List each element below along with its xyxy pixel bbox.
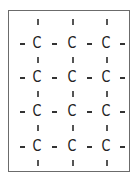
carbon-atom: C: [101, 69, 111, 85]
horizontal-bond: [87, 77, 92, 79]
vertical-bond: [106, 91, 107, 97]
vertical-bond: [72, 19, 73, 25]
vertical-bond: [106, 57, 107, 63]
horizontal-bond: [20, 43, 25, 45]
horizontal-bond: [87, 111, 92, 113]
carbon-atom: C: [67, 138, 77, 154]
carbon-atom: C: [101, 103, 111, 119]
vertical-bond: [72, 160, 73, 166]
horizontal-bond: [20, 111, 25, 113]
vertical-bond: [106, 160, 107, 166]
carbon-atom: C: [32, 69, 42, 85]
vertical-bond: [37, 125, 38, 131]
vertical-bond: [72, 57, 73, 63]
vertical-bond: [37, 160, 38, 166]
vertical-bond: [72, 91, 73, 97]
carbon-atom: C: [67, 35, 77, 51]
carbon-atom: C: [32, 103, 42, 119]
horizontal-bond: [120, 111, 125, 113]
vertical-bond: [37, 19, 38, 25]
horizontal-bond: [87, 146, 92, 148]
horizontal-bond: [52, 111, 57, 113]
vertical-bond: [106, 19, 107, 25]
carbon-atom: C: [67, 103, 77, 119]
carbon-atom: C: [101, 35, 111, 51]
horizontal-bond: [52, 43, 57, 45]
vertical-bond: [72, 125, 73, 131]
horizontal-bond: [120, 77, 125, 79]
carbon-atom: C: [101, 138, 111, 154]
horizontal-bond: [120, 43, 125, 45]
horizontal-bond: [87, 43, 92, 45]
horizontal-bond: [120, 146, 125, 148]
horizontal-bond: [52, 146, 57, 148]
vertical-bond: [37, 91, 38, 97]
vertical-bond: [106, 125, 107, 131]
horizontal-bond: [20, 77, 25, 79]
carbon-atom: C: [67, 69, 77, 85]
carbon-atom: C: [32, 138, 42, 154]
horizontal-bond: [52, 77, 57, 79]
horizontal-bond: [20, 146, 25, 148]
vertical-bond: [37, 57, 38, 63]
carbon-atom: C: [32, 35, 42, 51]
